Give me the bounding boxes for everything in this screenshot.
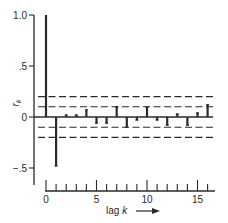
x-tick-label: 0 xyxy=(43,194,49,205)
x-axis-lag-ruler: 051015 xyxy=(43,180,215,205)
y-tick-label: 1.0 xyxy=(13,10,27,21)
y-axis-label: rk xyxy=(10,99,22,106)
x-tick-label: 5 xyxy=(94,194,100,205)
acf-bars xyxy=(46,15,209,166)
y-tick-label: .5 xyxy=(19,61,28,72)
x-tick-label: 10 xyxy=(141,194,153,205)
x-tick-label: 15 xyxy=(192,194,204,205)
y-axis: 1.0.50−.5 xyxy=(13,10,34,186)
autocorrelation-chart: 1.0.50−.5 051015 rk lagk xyxy=(0,0,228,223)
arrow-right-icon xyxy=(136,208,160,214)
x-axis-label: lagk xyxy=(106,205,128,216)
y-tick-label: 0 xyxy=(21,112,27,123)
y-tick-label: −.5 xyxy=(13,163,28,174)
